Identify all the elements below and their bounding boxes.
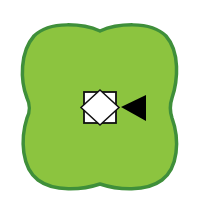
blob-figure (0, 0, 200, 214)
map-tile (0, 0, 200, 214)
square-with-inscribed-diamond-icon (81, 90, 119, 125)
